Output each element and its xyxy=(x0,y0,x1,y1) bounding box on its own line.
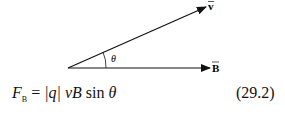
angle-arc xyxy=(103,52,106,68)
equation-number: (29.2) xyxy=(236,84,275,102)
eq-abs-q: |q| xyxy=(44,84,65,101)
eq-lhs: F xyxy=(12,84,22,101)
eq-lhs-sub: B xyxy=(22,95,27,104)
vector-diagram: θ v B xyxy=(0,0,285,80)
eq-sign: = xyxy=(27,84,44,101)
eq-vB: vB xyxy=(65,84,86,101)
equation: FB = |q| vB sin θ xyxy=(12,84,116,102)
angle-theta-label: θ xyxy=(111,53,116,64)
eq-theta: θ xyxy=(109,84,117,101)
eq-sin: sin xyxy=(86,84,109,101)
vector-b-label: B xyxy=(212,62,220,74)
vector-v-arrow xyxy=(68,7,206,68)
